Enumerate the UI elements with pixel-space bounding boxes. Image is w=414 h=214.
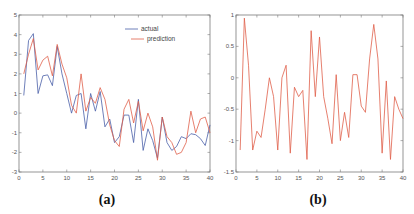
panel-a: 0510152025303540-3-2-1012345actualpredic… <box>12 12 214 208</box>
legend-label-actual: actual <box>141 25 159 32</box>
legend-label-prediction: prediction <box>147 35 176 43</box>
y-tick-label: 0.5 <box>226 43 235 49</box>
y-tick-label: 1 <box>14 91 18 97</box>
x-tick-label: 35 <box>379 175 386 181</box>
series-line-error <box>240 18 403 159</box>
y-tick-label: 0 <box>231 75 235 81</box>
x-tick-label: 10 <box>274 175 281 181</box>
x-tick-label: 0 <box>17 175 21 181</box>
y-tick-label: -1 <box>229 138 235 144</box>
panel-b: 0510152025303540-1.5-1-0.500.51(b) <box>224 12 407 208</box>
series-line-prediction <box>24 39 210 161</box>
y-tick-label: -2 <box>12 149 18 155</box>
y-tick-label: -1 <box>12 130 18 136</box>
x-tick-label: 40 <box>207 175 214 181</box>
x-tick-label: 15 <box>295 175 302 181</box>
x-tick-label: 35 <box>183 175 190 181</box>
x-tick-label: 0 <box>234 175 238 181</box>
y-tick-label: 0 <box>14 110 18 116</box>
y-tick-label: -0.5 <box>224 106 235 112</box>
y-tick-label: 5 <box>14 12 18 18</box>
x-tick-label: 10 <box>63 175 70 181</box>
y-tick-label: 1 <box>231 12 235 18</box>
axes-box <box>19 15 210 172</box>
panel-caption: (b) <box>309 192 326 208</box>
y-tick-label: 3 <box>14 51 18 57</box>
x-tick-label: 25 <box>337 175 344 181</box>
y-tick-label: -1.5 <box>224 169 235 175</box>
x-tick-label: 40 <box>400 175 407 181</box>
x-tick-label: 20 <box>111 175 118 181</box>
x-tick-label: 20 <box>316 175 323 181</box>
y-tick-label: 2 <box>14 71 18 77</box>
x-tick-label: 30 <box>159 175 166 181</box>
y-tick-label: -3 <box>12 169 18 175</box>
x-tick-label: 5 <box>255 175 259 181</box>
x-tick-label: 30 <box>358 175 365 181</box>
x-tick-label: 25 <box>135 175 142 181</box>
figure: 0510152025303540-3-2-1012345actualpredic… <box>0 0 414 214</box>
x-tick-label: 5 <box>41 175 45 181</box>
x-tick-label: 15 <box>87 175 94 181</box>
series-line-actual <box>24 34 210 159</box>
panel-caption: (a) <box>99 192 116 208</box>
y-tick-label: 4 <box>14 32 18 38</box>
